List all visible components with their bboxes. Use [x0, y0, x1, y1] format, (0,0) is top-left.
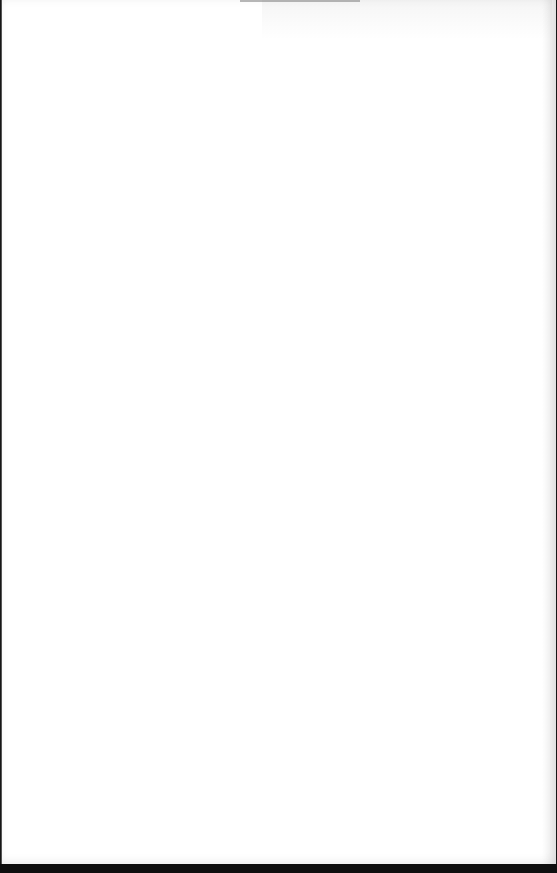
dark-background-edge	[0, 864, 557, 873]
blank-paper-sheet	[1, 0, 556, 864]
top-edge-shadow	[240, 0, 360, 2]
photo-scene	[0, 0, 557, 873]
